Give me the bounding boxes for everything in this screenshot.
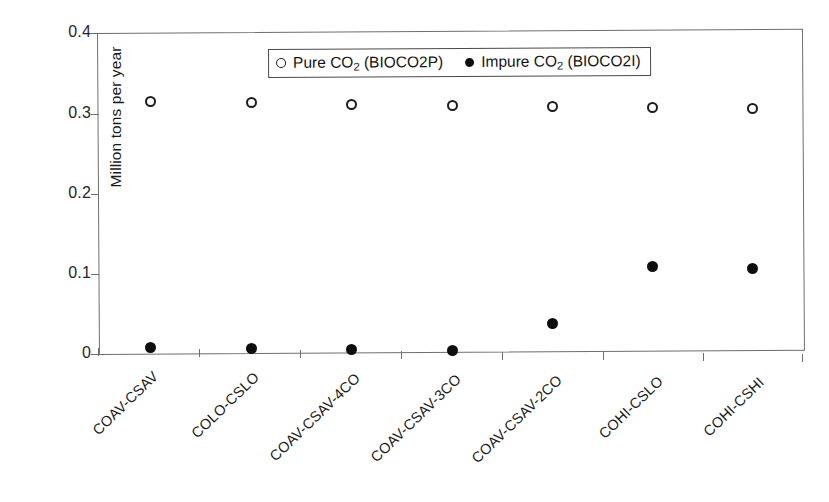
y-tick-label-0.4: 0.4 xyxy=(35,23,91,41)
data-point-impure-cohi-cshi xyxy=(747,263,758,274)
data-point-impure-colo-cslo xyxy=(246,343,257,354)
data-point-pure-cohi-cshi xyxy=(747,103,758,114)
x-tick-mark-6 xyxy=(703,353,704,361)
data-point-impure-coav-csav-4co xyxy=(346,344,357,355)
y-tick-label-0.1: 0.1 xyxy=(35,264,91,282)
x-tick-mark-2 xyxy=(300,350,301,358)
y-tick-label-0.2: 0.2 xyxy=(35,184,91,202)
x-tick-mark-4 xyxy=(502,352,503,360)
legend-entry-pure-co2: Pure CO2 (BIOCO2P) xyxy=(276,53,443,72)
x-tick-mark-1 xyxy=(199,349,200,357)
plot-area-frame xyxy=(97,29,805,355)
y-tick-label-0.3: 0.3 xyxy=(35,104,91,122)
data-point-impure-coav-csav xyxy=(145,342,156,353)
data-point-pure-cohi-cslo xyxy=(647,102,658,113)
data-point-impure-cohi-cslo xyxy=(647,261,658,272)
y-axis-ticks: 0.4 0.3 0.2 0.1 0 xyxy=(29,0,91,502)
legend-label-pure-co2: Pure CO2 (BIOCO2P) xyxy=(293,53,443,72)
x-tick-mark-7 xyxy=(802,354,803,362)
data-point-pure-colo-cslo xyxy=(246,97,257,108)
x-tick-mark-0 xyxy=(98,348,99,356)
open-circle-icon xyxy=(276,58,286,68)
x-tick-label-coav-csav-4co: COAV-CSAV-4CO xyxy=(244,370,363,486)
data-point-pure-coav-csav-3co xyxy=(447,100,458,111)
x-tick-label-coav-csav-3co: COAV-CSAV-3CO xyxy=(345,371,464,487)
y-tick-label-0: 0 xyxy=(35,344,91,362)
data-point-impure-coav-csav-3co xyxy=(447,345,458,356)
data-point-pure-coav-csav xyxy=(145,96,156,107)
x-tick-label-cohi-cshi: COHI-CSHI xyxy=(648,374,767,490)
x-tick-label-colo-cslo: COLO-CSLO xyxy=(143,369,262,485)
y-tick-mark-0.2 xyxy=(91,194,99,195)
x-tick-mark-5 xyxy=(603,352,604,360)
legend-label-impure-co2: Impure CO2 (BIOCO2I) xyxy=(481,52,641,71)
chart-figure: Million tons per year 0.4 0.3 0.2 0.1 0 … xyxy=(0,0,829,502)
y-tick-mark-0.3 xyxy=(91,114,99,115)
y-tick-mark-0.1 xyxy=(91,274,99,275)
data-point-pure-coav-csav-4co xyxy=(346,99,357,110)
legend-entry-impure-co2: Impure CO2 (BIOCO2I) xyxy=(465,52,641,71)
y-axis-title: Million tons per year xyxy=(107,0,125,237)
filled-circle-icon xyxy=(465,57,474,66)
y-tick-mark-0.4 xyxy=(91,33,99,34)
x-tick-label-coav-csav-2co: COAV-CSAV-2CO xyxy=(446,372,565,488)
x-tick-mark-3 xyxy=(401,351,402,359)
data-point-pure-coav-csav-2co xyxy=(547,101,558,112)
chart-legend: Pure CO2 (BIOCO2P) Impure CO2 (BIOCO2I) xyxy=(268,47,651,78)
x-tick-label-cohi-cslo: COHI-CSLO xyxy=(547,373,666,489)
data-point-impure-coav-csav-2co xyxy=(547,318,558,329)
